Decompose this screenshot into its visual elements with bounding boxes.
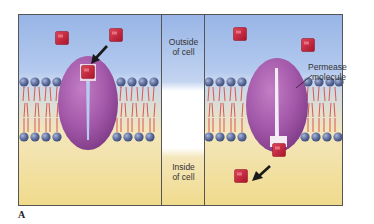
solute-outside-2 xyxy=(110,29,123,42)
solute-outside-4 xyxy=(302,39,315,52)
solute-outside-3 xyxy=(234,28,247,41)
permease-right xyxy=(246,58,308,152)
outside-of-cell-label: Outside of cell xyxy=(162,37,205,57)
solute-outside-1 xyxy=(56,32,69,45)
permease-molecule-label: Permease molecule xyxy=(308,62,368,82)
figure-label: A xyxy=(18,209,25,220)
diagram: Outside of cell Inside of cell Permease … xyxy=(0,0,374,224)
inside-of-cell-label: Inside of cell xyxy=(162,162,205,182)
solute-binding-right xyxy=(273,144,286,157)
solute-binding-left xyxy=(82,66,95,79)
solute-inside-released xyxy=(235,170,248,183)
